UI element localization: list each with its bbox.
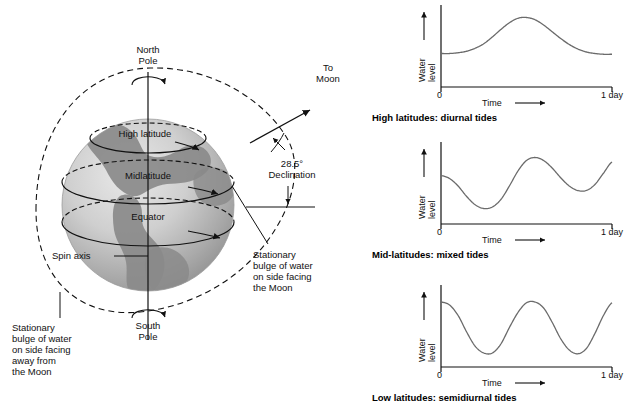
tide-curve-semidiurnal (441, 301, 612, 354)
bulge-facing-moon-label: Stationarybulge of wateron side facingth… (253, 249, 313, 293)
caption-diurnal: High latitudes: diurnal tides (372, 112, 497, 124)
to-moon-arrow (250, 110, 310, 143)
chart1-xlabel: Time (482, 98, 502, 108)
declination-label: 28.5°Declination (256, 158, 328, 180)
caption-mixed: Mid-latitudes: mixed tides (372, 249, 489, 261)
midlatitude-label: Midlatitude (100, 170, 196, 181)
bulge-away-from-moon-label: Stationarybulge of wateron side facingaw… (12, 322, 72, 377)
tide-curve-diurnal (441, 17, 612, 54)
chart2-ylabel: Waterlevel (417, 195, 437, 219)
chart1-x-start: 0 (437, 90, 442, 100)
chart-semidiurnal (424, 285, 612, 383)
chart-diurnal (424, 5, 612, 103)
bulge-facing-leader (232, 186, 268, 244)
equator-label: Equator (106, 211, 190, 222)
south-pole-label: SouthPole (112, 320, 184, 342)
chart2-xlabel: Time (482, 235, 502, 245)
tide-curve-mixed (441, 158, 612, 209)
spin-axis-label: Spin axis (52, 250, 91, 261)
chart3-x-end: 1 day (601, 370, 623, 380)
declination-reference-line (246, 186, 315, 207)
chart1-ylabel: Waterlevel (417, 58, 437, 82)
chart-mixed (424, 142, 612, 240)
chart1-x-end: 1 day (601, 90, 623, 100)
caption-semidiurnal: Low latitudes: semidiurnal tides (372, 392, 517, 404)
chart3-ylabel: Waterlevel (417, 338, 437, 362)
chart2-x-start: 0 (437, 227, 442, 237)
high-latitude-label: High latitude (96, 128, 194, 139)
to-moon-label: ToMoon (303, 62, 353, 84)
chart3-x-start: 0 (437, 370, 442, 380)
north-pole-label: NorthPole (112, 44, 184, 66)
chart3-xlabel: Time (482, 378, 502, 388)
chart2-x-end: 1 day (601, 227, 623, 237)
declination-angle-marker (271, 133, 285, 152)
